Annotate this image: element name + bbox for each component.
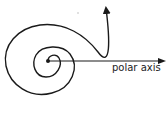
pole-point [46,59,50,63]
spiral-curve [5,8,108,94]
speck [77,12,79,14]
polar-axis-label: polar axis [112,62,161,73]
